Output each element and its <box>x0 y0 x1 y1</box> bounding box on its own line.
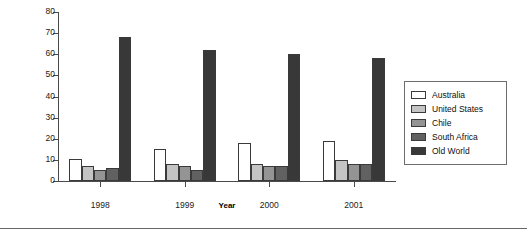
legend-swatch-icon <box>411 105 426 113</box>
bar <box>238 143 250 181</box>
legend-item-label: Old World <box>432 146 470 156</box>
y-tick-label: 10 <box>46 154 55 165</box>
legend-item[interactable]: South Africa <box>411 130 500 144</box>
bar <box>323 141 335 181</box>
bar-group <box>69 12 131 181</box>
legend-swatch-icon <box>411 133 426 141</box>
bar <box>166 164 178 181</box>
bar <box>360 164 372 181</box>
bar <box>154 149 166 181</box>
bar <box>203 50 215 181</box>
legend-swatch-icon <box>411 119 426 127</box>
y-tick-label: 50 <box>46 69 55 80</box>
bar <box>335 160 347 181</box>
x-tick-mark <box>100 182 101 187</box>
legend-swatch-icon <box>411 147 426 155</box>
bar <box>263 166 275 181</box>
legend-item[interactable]: Old World <box>411 144 500 158</box>
legend-item-label: Chile <box>432 118 451 128</box>
y-tick-label: 80 <box>46 6 55 17</box>
x-axis-line <box>58 181 396 182</box>
bar <box>251 164 263 181</box>
legend-item-label: United States <box>432 104 483 114</box>
y-tick-label: 20 <box>46 133 55 144</box>
y-tick-label: 30 <box>46 112 55 123</box>
bar-group <box>238 12 300 181</box>
bar <box>288 54 300 181</box>
bar-group <box>323 12 385 181</box>
bar-group <box>154 12 216 181</box>
y-tick-label: 60 <box>46 48 55 59</box>
legend-item[interactable]: Chile <box>411 116 500 130</box>
x-tick-mark <box>269 182 270 187</box>
legend-item-label: South Africa <box>432 132 478 142</box>
legend-item[interactable]: United States <box>411 102 500 116</box>
plot-frame: 01020304050607080 <box>58 12 396 182</box>
bar <box>69 159 81 181</box>
legend-swatch-icon <box>411 91 426 99</box>
y-tick-label: 70 <box>46 27 55 38</box>
y-axis-line <box>58 12 59 182</box>
legend-item-label: Australia <box>432 90 465 100</box>
bar <box>372 58 384 181</box>
bar <box>348 164 360 181</box>
bar <box>94 170 106 181</box>
y-tick-label: 40 <box>46 91 55 102</box>
bar <box>82 166 94 181</box>
legend-item[interactable]: Australia <box>411 88 500 102</box>
bar <box>191 170 203 181</box>
chart-legend: AustraliaUnited StatesChileSouth AfricaO… <box>404 81 507 165</box>
chart-figure: Percentage 01020304050607080 19981999200… <box>0 0 527 236</box>
bar <box>119 37 131 181</box>
plot-area: 01020304050607080 1998199920002001 <box>58 12 396 182</box>
bar <box>275 166 287 181</box>
bar <box>179 166 191 181</box>
x-tick-mark <box>185 182 186 187</box>
y-tick-label: 0 <box>50 175 55 186</box>
x-axis-title: Year <box>58 201 396 210</box>
bar <box>106 168 118 181</box>
x-tick-mark <box>354 182 355 187</box>
bottom-divider <box>0 228 527 229</box>
